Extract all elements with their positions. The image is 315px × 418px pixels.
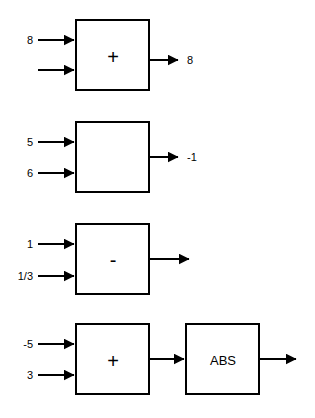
row-4: + -5 3 ABS [23,324,296,394]
output-label: -1 [187,151,197,163]
input-label-1: 8 [27,34,33,46]
row-2: 5 6 -1 [27,122,197,192]
block-operator-label: + [107,350,119,372]
block-diagram: + 8 8 5 6 -1 - 1 1/3 [0,0,315,418]
output-label: 8 [187,54,193,66]
block-operator-label: - [110,249,117,271]
row-1: + 8 8 [27,20,193,90]
block-operator-label: ABS [210,353,236,368]
block-operator-label: + [107,46,119,68]
input-label-1: -5 [23,338,33,350]
blank-block[interactable] [76,122,149,192]
row-3: - 1 1/3 [18,224,189,294]
input-label-2: 6 [27,167,33,179]
input-label-1: 1 [27,238,33,250]
input-label-2: 1/3 [18,270,33,282]
diagram-canvas: + 8 8 5 6 -1 - 1 1/3 [0,0,315,418]
input-label-1: 5 [27,136,33,148]
input-label-2: 3 [27,369,33,381]
